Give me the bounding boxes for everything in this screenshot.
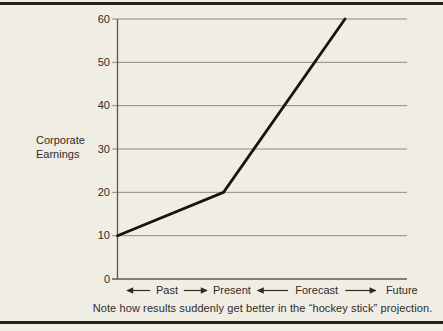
- x-axis-label: Future: [386, 284, 418, 296]
- y-tick-label: 10: [98, 229, 110, 241]
- x-axis-label: Past: [156, 284, 178, 296]
- y-tick-label: 20: [98, 186, 110, 198]
- left-arrowhead-icon: [126, 287, 133, 293]
- scanned-book-figure: Corporate Earnings 0102030405060PastPres…: [0, 0, 443, 331]
- x-axis-label: Present: [213, 284, 251, 296]
- right-arrowhead-icon: [201, 287, 208, 293]
- y-tick-label: 60: [98, 13, 110, 25]
- x-axis-label: Forecast: [295, 284, 338, 296]
- y-tick-label: 40: [98, 99, 110, 111]
- y-tick-label: 50: [98, 56, 110, 68]
- y-tick-label: 0: [104, 273, 110, 285]
- bottom-rule-line: [0, 321, 443, 324]
- left-arrowhead-icon: [257, 287, 264, 293]
- right-arrowhead-icon: [370, 287, 377, 293]
- y-tick-label: 30: [98, 143, 110, 155]
- figure-caption: Note how results suddenly get better in …: [82, 302, 443, 314]
- earnings-line: [118, 19, 346, 236]
- hockey-stick-line-chart: 0102030405060PastPresentForecastFuture: [0, 0, 443, 331]
